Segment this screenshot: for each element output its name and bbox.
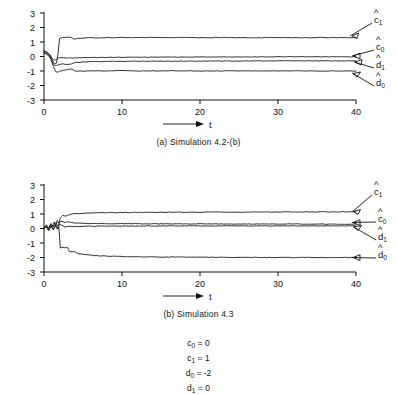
parameter-row-c1: c1 = 1 [0,352,397,367]
parameter-list: c0 = 0 c1 = 1 d0 = -2 d1 = 0 [0,337,397,395]
x-tick-label-b-20: 20 [195,279,205,289]
y-tick-label-b-2: 2 [30,195,35,205]
y-tick-label-a-3: 3 [30,9,35,19]
series-label-a-c0: ^ c0 [376,34,385,53]
y-tick-label-b-3: 3 [30,181,35,191]
leader-lines-b [352,195,376,261]
parameter-value-c0: 0 [205,338,210,348]
trace-a-d1-hat [44,52,356,65]
arrowhead-a-d0 [353,72,361,77]
caption-b: (b) Simulation 4.3 [0,309,397,319]
y-tick-label-b-m2: -2 [27,253,35,263]
series-label-a-c1: ^ c1 [374,7,383,26]
x-axis-arrowhead-b [196,293,204,299]
leader-b-c0 [352,222,376,223]
plot-a-svg: 3 2 1 0 -1 -2 -3 0 10 20 30 40 [0,0,397,135]
series-label-a-d0: ^ d0 [376,70,385,89]
axis-b [40,184,356,276]
figure-container: 3 2 1 0 -1 -2 -3 0 10 20 30 40 [0,0,397,395]
x-axis-arrowhead-a [196,121,204,127]
series-label-b-d0: ^ d0 [378,242,387,261]
series-label-a-d1: ^ d1 [376,52,385,71]
chart-panel-a: 3 2 1 0 -1 -2 -3 0 10 20 30 40 [0,0,397,165]
y-tick-label-b-m3: -3 [27,268,35,278]
parameter-row-d0: d0 = -2 [0,367,397,382]
x-axis-name-group-a: t [163,119,212,130]
x-tick-label-a-0: 0 [41,107,46,117]
y-tick-label-b-1: 1 [30,210,35,220]
y-tick-label-a-m1: -1 [27,67,35,77]
leader-b-d1 [353,227,376,241]
y-tick-label-a-0: 0 [30,52,35,62]
parameter-sub-d0: 0 [190,372,194,379]
series-base-a-d0: d0 [376,77,385,89]
x-tick-label-a-20: 20 [195,107,205,117]
leader-a-c1 [350,23,372,36]
series-base-a-c1: c1 [374,14,383,26]
y-tick-label-b-0: 0 [30,224,35,234]
plot-b-svg: 3 2 1 0 -1 -2 -3 0 10 20 30 40 [0,172,397,307]
series-label-b-c1: ^ c1 [374,179,383,198]
x-axis-name-group-b: t [163,291,212,302]
parameter-sub-c0: 0 [192,342,196,349]
parameter-sub-c1: 1 [192,357,196,364]
x-axis-label-a: t [209,119,212,130]
x-tick-label-a-30: 30 [273,107,283,117]
parameter-sub-d1: 1 [192,387,196,394]
x-axis-label-b: t [209,291,212,302]
series-label-b-c0: ^ c0 [378,206,387,225]
arrowhead-a-d1 [355,60,362,66]
caption-a: (a) Simulation 4.2-(b) [0,137,397,147]
series-base-b-d0: d0 [378,249,387,261]
series-base-b-c1: c1 [374,186,383,198]
parameter-value-c1: 1 [205,353,210,363]
trace-b-c0-hat [44,221,356,228]
parameter-row-c0: c0 = 0 [0,337,397,352]
chart-panel-b: 3 2 1 0 -1 -2 -3 0 10 20 30 40 [0,172,397,337]
y-tick-label-a-m2: -2 [27,81,35,91]
leader-b-d0 [352,258,376,259]
trace-a-c1-hat [44,37,356,64]
arrowhead-a-c0 [353,53,360,59]
leader-lines-a [350,23,374,86]
y-tick-label-a-2: 2 [30,23,35,33]
trace-b-c1-hat [44,212,356,228]
parameter-value-d0: -2 [204,368,212,378]
y-tick-label-b-m1: -1 [27,239,35,249]
x-tick-label-b-10: 10 [117,279,127,289]
y-tick-label-a-m3: -3 [27,96,35,106]
trace-b-d1-hat [44,224,356,230]
trace-a-c0-hat [44,51,356,60]
parameter-value-d1: 0 [205,383,210,393]
x-tick-label-a-10: 10 [117,107,127,117]
x-tick-label-b-0: 0 [41,279,46,289]
trace-a-d0-hat [44,53,356,72]
x-tick-label-b-30: 30 [273,279,283,289]
trace-b-d0-hat [44,226,356,258]
leader-b-c1 [352,195,372,212]
series-label-b-d1: ^ d1 [378,224,387,243]
x-tick-label-a-40: 40 [351,107,361,117]
y-tick-label-a-1: 1 [30,38,35,48]
x-tick-label-b-40: 40 [351,279,361,289]
parameter-row-d1: d1 = 0 [0,382,397,395]
